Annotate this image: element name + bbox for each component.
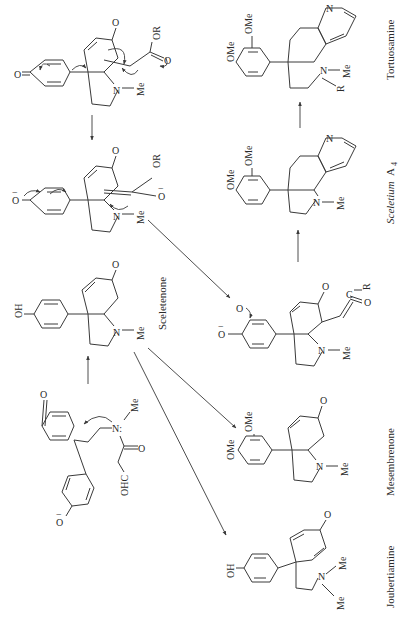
- atom-c: C: [346, 289, 353, 300]
- atom-n-pyridine: N: [326, 133, 333, 144]
- atom-n: N: [113, 85, 120, 96]
- atom-oxo: O: [112, 145, 119, 156]
- atom-ome: OMe: [243, 13, 254, 34]
- atom-or: OR: [151, 26, 162, 40]
- compound-label: Sceletenone: [156, 277, 168, 330]
- atom-n: N: [316, 461, 323, 472]
- compound-label: Sceletium A 4: [384, 162, 399, 224]
- atom-n: N: [113, 211, 120, 222]
- atom-or: OR: [151, 154, 162, 168]
- atom-me: Me: [335, 196, 346, 210]
- atom-ome: OMe: [225, 169, 236, 190]
- atom-me: Me: [135, 82, 146, 96]
- compound-label-main: Sceletium: [384, 181, 396, 224]
- atom-oxo: O: [320, 395, 327, 406]
- atom-oh: OH: [13, 304, 24, 318]
- compound-enolate-intermediate: O − O N Me OR O −: [12, 145, 165, 232]
- atom-ome: OMe: [243, 145, 254, 166]
- atom-oxo: O: [14, 69, 21, 80]
- atom-n-pyridine: N: [326, 3, 333, 14]
- compound-precursor: O N: Me O OHC O −: [40, 389, 145, 528]
- compound-sceletium-a4: OMe OMe N N Me Sceletium A 4: [225, 133, 399, 224]
- compound-label: Tortuosamine: [384, 20, 396, 80]
- charge-minus: −: [12, 187, 18, 198]
- reaction-arrow: [148, 348, 236, 428]
- atom-o: O: [164, 55, 171, 66]
- atom-n: N: [113, 327, 120, 338]
- atom-n: N: [313, 197, 320, 208]
- atom-oxo: O: [324, 509, 331, 520]
- compound-joubertiamine: OH O N Me Me Joubertiamine: [225, 509, 396, 610]
- reaction-scheme: O O N Me OR O O −: [0, 0, 404, 622]
- atom-me: Me: [335, 596, 346, 610]
- atom-me: Me: [135, 326, 146, 340]
- compound-label-subscript: 4: [390, 162, 399, 166]
- compound-tortuosamine: OMe OMe N N Me R Tortuosamine: [225, 3, 396, 92]
- atom-n: N: [320, 65, 327, 76]
- compound-label: Joubertiamine: [384, 546, 396, 608]
- charge-minus: −: [218, 321, 224, 332]
- atom-me: Me: [341, 64, 352, 78]
- compound-dienone-intermediate: O O N Me OR O: [14, 17, 171, 106]
- atom-ome: OMe: [225, 41, 236, 62]
- charge-minus: −: [56, 509, 62, 520]
- atom-me: Me: [341, 346, 352, 360]
- atom-me: Me: [135, 210, 146, 224]
- atom-n: N:: [112, 423, 122, 434]
- atom-ome: OMe: [243, 411, 254, 432]
- atom-n: N: [318, 571, 325, 582]
- atom-me: Me: [129, 398, 140, 412]
- atom-oxo: O: [112, 17, 119, 28]
- compound-label: Mesembrenone: [384, 428, 396, 496]
- compound-sceletenone: OH O N Me Sceletenone: [13, 259, 168, 346]
- atom-oxo: O: [112, 259, 119, 270]
- atom-oxo: O: [40, 389, 47, 400]
- reaction-arrow: [134, 352, 226, 535]
- atom-ome: OMe: [225, 439, 236, 460]
- atom-n: N: [318, 345, 325, 356]
- atom-r: R: [335, 85, 346, 92]
- atom-aldehyde: OHC: [119, 475, 130, 496]
- compound-mesembrenone: OMe OMe O N Me Mesembrenone: [225, 395, 396, 496]
- atom-carbonyl-o: O: [138, 443, 145, 454]
- atom-oh: OH: [225, 564, 236, 578]
- svg-text:Sceletium A 4: Sceletium A 4: [384, 162, 399, 224]
- atom-me: Me: [339, 462, 350, 476]
- atom-oxo: O: [322, 281, 329, 292]
- atom-o: O: [236, 303, 243, 314]
- charge-minus: −: [158, 183, 164, 194]
- compound-catechol-intermediate: O − O O C R O N Me: [218, 281, 372, 366]
- atom-o: O: [364, 297, 371, 308]
- compound-label-sub: A: [384, 168, 396, 176]
- atom-r: R: [361, 283, 372, 290]
- atom-me: Me: [337, 556, 348, 570]
